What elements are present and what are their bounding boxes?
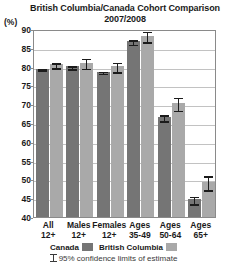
error-bar (68, 66, 77, 71)
y-axis-tick-label: 75 (1, 82, 31, 90)
x-axis-tick-line: Ages (182, 220, 221, 230)
y-axis-tick-mark (30, 218, 33, 219)
y-axis: 9085807570656055504540 (0, 30, 31, 218)
error-bar-icon (50, 254, 57, 262)
error-bar (190, 197, 199, 206)
y-axis-tick-label: 50 (1, 176, 31, 184)
bar (172, 103, 185, 217)
y-axis-tick-label: 80 (1, 64, 31, 72)
chart-figure: British Columbia/Canada Cohort Compariso… (0, 0, 227, 268)
error-bar (160, 115, 169, 123)
y-axis-tick-label: 45 (1, 195, 31, 203)
bar (80, 63, 93, 218)
error-bar (129, 40, 138, 46)
chart-subtitle: 2007/2008 (26, 14, 224, 25)
legend-entries: CanadaBritish Columbia (47, 242, 180, 252)
confidence-note: 95% confidence limits of estimate (0, 254, 227, 263)
bar (36, 69, 49, 217)
error-bar (174, 98, 183, 112)
chart-title: British Columbia/Canada Cohort Compariso… (26, 3, 224, 14)
error-bar (82, 59, 91, 70)
y-axis-tick-label: 65 (1, 120, 31, 128)
plot-area (33, 30, 216, 218)
y-axis-tick-label: 70 (1, 101, 31, 109)
bar (127, 41, 140, 217)
bar (141, 36, 154, 217)
legend-label: British Columbia (99, 243, 163, 252)
legend-swatch (82, 243, 93, 251)
legend-entry: British Columbia (99, 242, 177, 251)
y-axis-tick-label: 60 (1, 139, 31, 147)
y-axis-tick-label: 40 (1, 214, 31, 222)
bar (66, 66, 79, 217)
error-bar (52, 63, 61, 70)
error-bar (99, 72, 108, 76)
error-bar (38, 69, 47, 72)
error-bar (113, 63, 122, 74)
legend-entry: Canada (50, 242, 93, 251)
y-axis-tick-label: 85 (1, 45, 31, 53)
x-axis-tick-line: 65+ (182, 230, 221, 240)
legend-swatch (166, 243, 177, 251)
chart-legend: CanadaBritish Columbia (0, 242, 227, 252)
chart-title-block: British Columbia/Canada Cohort Compariso… (26, 3, 224, 25)
bar (50, 64, 63, 217)
gridline (34, 50, 215, 51)
legend-label: Canada (50, 243, 79, 252)
error-bar (204, 176, 213, 192)
bar (97, 72, 110, 218)
y-axis-tick-label: 55 (1, 158, 31, 166)
bar (158, 117, 171, 217)
x-axis-tick-label: Ages65+ (182, 220, 221, 240)
error-bar (143, 32, 152, 44)
x-axis: All12+Males12+Females12+Ages35-49Ages50-… (33, 220, 216, 242)
confidence-note-text: 95% confidence limits of estimate (59, 254, 178, 263)
bar (111, 66, 124, 217)
y-axis-tick-label: 90 (1, 26, 31, 34)
